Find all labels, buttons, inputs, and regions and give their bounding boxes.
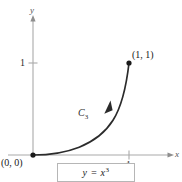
curve-name-letter: C bbox=[78, 107, 85, 118]
equation-box: y = x3 bbox=[57, 163, 135, 182]
curve-direction-arrowhead bbox=[104, 101, 112, 114]
origin-point-label: (0, 0) bbox=[1, 158, 23, 168]
y-axis-label: y bbox=[30, 6, 34, 15]
origin-point-dot bbox=[30, 152, 35, 157]
y-axis-tick-label-1: 1 bbox=[20, 58, 25, 68]
y-axis-group bbox=[29, 15, 38, 158]
cubic-curve-figure: y x 1 1 (1, 1) (0, 0) C3 y = x3 bbox=[0, 0, 182, 182]
curve-name-subscript: 3 bbox=[85, 113, 89, 121]
equation-text: y = x3 bbox=[82, 166, 109, 178]
x-axis-arrowhead bbox=[168, 152, 175, 157]
y-axis-arrowhead bbox=[30, 15, 35, 22]
equation-lhs: y = x bbox=[82, 168, 105, 179]
equation-exponent: 3 bbox=[106, 166, 110, 174]
curve-name-label: C3 bbox=[78, 108, 88, 121]
end-point-label: (1, 1) bbox=[132, 50, 154, 60]
plot-canvas bbox=[0, 0, 182, 182]
end-point-dot bbox=[126, 60, 131, 65]
x-axis-label: x bbox=[175, 150, 179, 159]
